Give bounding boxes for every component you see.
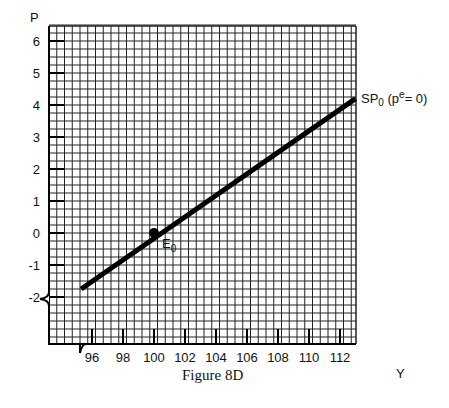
svg-text:3: 3 — [33, 130, 40, 145]
x-tick-labels: 9698100102104106108110112 — [85, 350, 351, 365]
y-axis-break-icon — [40, 286, 49, 306]
y-axis-label: P — [30, 10, 39, 25]
curve-label: SP0 (pe= 0) — [361, 89, 427, 108]
svg-text:98: 98 — [116, 350, 130, 365]
figure-caption: Figure 8D — [182, 367, 243, 383]
svg-text:5: 5 — [33, 66, 40, 81]
e0-point — [149, 228, 159, 238]
grid — [49, 25, 356, 344]
svg-text:6: 6 — [33, 34, 40, 49]
svg-text:106: 106 — [236, 350, 258, 365]
sp0-curve — [81, 99, 355, 289]
svg-text:4: 4 — [33, 98, 40, 113]
svg-text:-1: -1 — [28, 258, 40, 273]
svg-text:2: 2 — [33, 162, 40, 177]
svg-text:-2: -2 — [28, 290, 40, 305]
svg-text:112: 112 — [330, 350, 351, 365]
svg-text:0: 0 — [33, 226, 40, 241]
svg-text:1: 1 — [33, 194, 40, 209]
svg-text:96: 96 — [85, 350, 99, 365]
svg-text:108: 108 — [267, 350, 289, 365]
x-axis-label: Y — [396, 366, 405, 381]
svg-text:104: 104 — [205, 350, 227, 365]
y-tick-labels: 6543210-1-2 — [28, 34, 40, 305]
chart: 6543210-1-2 9698100102104106108110112 P … — [0, 0, 449, 408]
svg-text:100: 100 — [143, 350, 165, 365]
svg-text:102: 102 — [174, 350, 196, 365]
svg-text:110: 110 — [299, 350, 320, 365]
point-label: E0 — [162, 236, 177, 254]
